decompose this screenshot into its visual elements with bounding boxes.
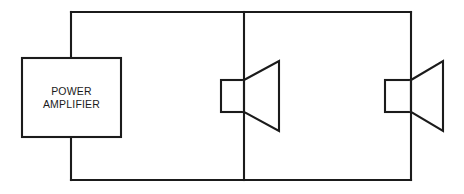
power-amplifier-label-line-2: AMPLIFIER — [22, 98, 121, 111]
loudspeaker-2-cone — [411, 61, 443, 131]
power-amplifier-label: POWER AMPLIFIER — [22, 85, 121, 110]
loudspeaker-1 — [221, 61, 279, 131]
speaker-circuit-diagram: POWER AMPLIFIER — [0, 0, 464, 194]
loudspeaker-1-body — [221, 80, 245, 112]
power-amplifier-label-line-1: POWER — [22, 85, 121, 98]
loudspeaker-1-cone — [244, 61, 279, 131]
loudspeaker-2 — [385, 61, 443, 131]
loudspeaker-2-body — [385, 80, 411, 112]
